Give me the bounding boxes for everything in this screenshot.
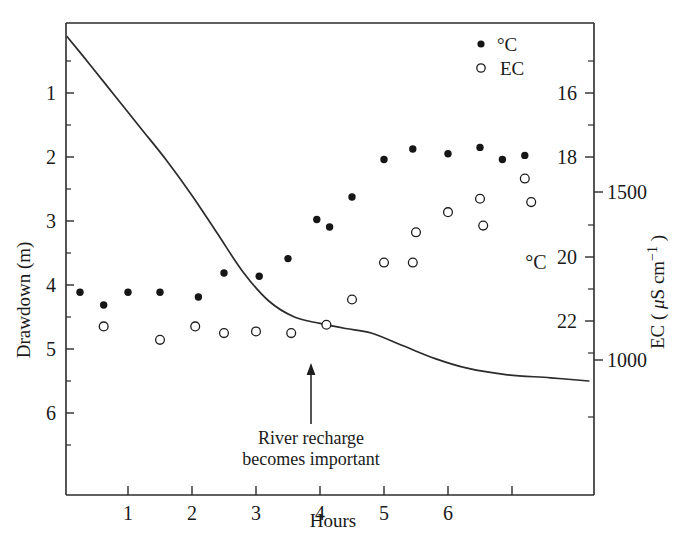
hours-tick-label-6: 6: [443, 502, 453, 524]
ec-point: [476, 194, 485, 203]
legend-label-temperature: °C: [497, 34, 517, 55]
ec-point: [479, 221, 488, 230]
legend-label-ec: EC: [500, 58, 524, 79]
plot-frame: [66, 23, 594, 495]
temperature-point: [256, 273, 263, 280]
temperature-point: [444, 150, 451, 157]
hours-tick-label-5: 5: [379, 502, 389, 524]
ec-point: [156, 335, 165, 344]
annotation-line-2: becomes important: [242, 449, 379, 469]
drawdown-tick-label-6: 6: [46, 402, 56, 424]
drawdown-tick-label-3: 3: [46, 210, 56, 232]
ec-tick-label-1500: 1500: [607, 181, 647, 203]
temperature-point: [348, 193, 355, 200]
legend-marker-ec: [477, 64, 485, 72]
temperature-point: [156, 289, 163, 296]
temperature-point: [521, 152, 528, 159]
temperature-point: [220, 269, 227, 276]
temperature-point: [313, 216, 320, 223]
ec-point: [220, 329, 229, 338]
drawdown-tick-labels: 123456: [46, 82, 56, 424]
drawdown-tick-label-4: 4: [46, 274, 56, 296]
drawdown-tick-label-2: 2: [46, 146, 56, 168]
ec-point: [287, 329, 296, 338]
ec-point: [322, 320, 331, 329]
hours-axis-ticks: [128, 486, 512, 495]
ec-point: [527, 198, 536, 207]
temperature-point: [476, 144, 483, 151]
temperature-axis-inner-label: °C: [525, 251, 546, 273]
ec-axis-ticks: [594, 192, 603, 360]
temperature-data-points: [76, 144, 528, 309]
ec-tick-labels: 15001000: [607, 181, 647, 371]
x-axis-title: Hours: [310, 510, 356, 531]
temperature-tick-label-18: 18: [557, 146, 577, 168]
ec-data-points: [99, 174, 535, 344]
hours-tick-label-2: 2: [187, 502, 197, 524]
figure-container: 123456 123456 16182022 15001000 Drawdown…: [0, 0, 681, 558]
chart-canvas: 123456 123456 16182022 15001000 Drawdown…: [0, 0, 681, 558]
temperature-point: [380, 156, 387, 163]
drawdown-tick-label-5: 5: [46, 338, 56, 360]
annotation-arrow-head: [307, 363, 316, 375]
ec-axis-title-group: EC ( μS cm−1 ): [645, 235, 669, 349]
annotation-line-1: River recharge: [258, 428, 364, 448]
ec-title-exponent: −1: [645, 246, 660, 261]
river-recharge-annotation: River recharge becomes important: [242, 363, 379, 469]
legend: °C EC: [477, 34, 524, 79]
hours-tick-label-1: 1: [123, 502, 133, 524]
ec-tick-label-1000: 1000: [607, 349, 647, 371]
temperature-point: [499, 156, 506, 163]
ec-point: [99, 322, 108, 331]
ec-title-mu: μ: [647, 299, 668, 310]
y-axis-title: Drawdown (m): [13, 242, 35, 359]
temperature-tick-label-20: 20: [557, 246, 577, 268]
temperature-tick-label-16: 16: [557, 82, 577, 104]
ec-point: [348, 295, 357, 304]
ec-point: [444, 208, 453, 217]
temperature-point: [100, 301, 107, 308]
ec-title-unit: S cm: [647, 261, 668, 300]
legend-marker-temperature: [477, 40, 484, 47]
ec-point: [520, 174, 529, 183]
hours-tick-labels: 123456: [123, 502, 453, 524]
temperature-point: [409, 145, 416, 152]
drawdown-tick-label-1: 1: [46, 82, 56, 104]
temperature-tick-labels: 16182022: [557, 82, 577, 332]
right-axis-ticks: [585, 61, 594, 417]
ec-point: [191, 322, 200, 331]
temperature-point: [326, 223, 333, 230]
ec-point: [380, 258, 389, 267]
ec-axis-title: EC ( μS cm−1 ): [645, 235, 669, 349]
ec-title-prefix: EC (: [647, 309, 669, 349]
temperature-point: [284, 255, 291, 262]
ec-point: [408, 258, 417, 267]
ec-point: [412, 228, 421, 237]
temperature-tick-label-22: 22: [557, 310, 577, 332]
hours-tick-label-3: 3: [251, 502, 261, 524]
ec-title-suffix: ): [647, 235, 669, 246]
temperature-point: [195, 293, 202, 300]
temperature-point: [124, 289, 131, 296]
ec-point: [252, 327, 261, 336]
drawdown-axis-ticks: [66, 61, 74, 445]
temperature-point: [76, 289, 83, 296]
